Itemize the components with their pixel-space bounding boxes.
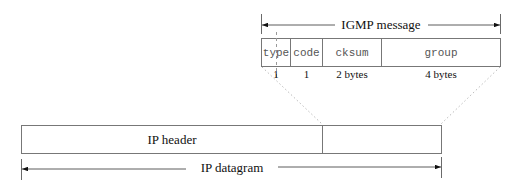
ip-box-outline [22, 126, 442, 154]
field-type: type [263, 47, 289, 59]
size-cksum: 2 bytes [336, 68, 367, 80]
field-cksum: cksum [335, 47, 368, 59]
ip-datagram-box: IP header [22, 126, 442, 154]
projection-line-left [262, 67, 322, 124]
igmp-message-label: IGMP message [341, 17, 421, 32]
field-code: code [293, 47, 319, 59]
ip-datagram-label: IP datagram [201, 160, 264, 175]
ip-datagram-dimension: IP datagram [22, 157, 442, 180]
igmp-encapsulation-diagram: IGMP message type code cksum group 1 1 2… [0, 0, 516, 183]
field-group: group [424, 47, 457, 59]
size-group: 4 bytes [425, 68, 456, 80]
ip-header-label: IP header [148, 132, 198, 147]
size-code: 1 [304, 68, 310, 80]
igmp-message-box: type code cksum group 1 1 2 bytes 4 byte… [262, 32, 501, 80]
igmp-message-dimension: IGMP message [262, 14, 501, 34]
